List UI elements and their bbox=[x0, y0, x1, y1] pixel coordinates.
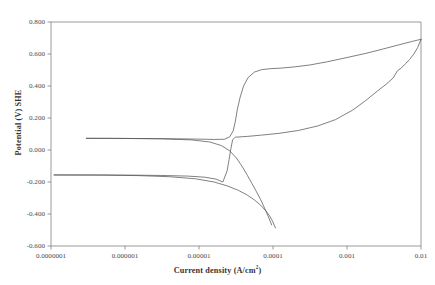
x-axis-title-tail: ) bbox=[258, 266, 261, 275]
x-tick-label: 0.000001 bbox=[90, 252, 160, 260]
series-line-cathodic-branch-upper bbox=[86, 138, 271, 225]
y-tick-label: 0.200 bbox=[5, 114, 45, 122]
y-tick-label: 0.600 bbox=[5, 50, 45, 58]
y-tick-label: 0.800 bbox=[5, 18, 45, 26]
chart-figure: -0.600-0.400-0.2000.0000.2000.4000.6000.… bbox=[0, 0, 435, 285]
x-axis-title: Current density (A/cm2) bbox=[0, 264, 435, 275]
x-tick-label: 0.00001 bbox=[164, 252, 234, 260]
y-axis-title: Potential (V) SHE bbox=[14, 68, 23, 178]
y-tick-label: -0.200 bbox=[5, 178, 45, 186]
series-line-anodic-branch-lower bbox=[54, 39, 421, 182]
series-line-anodic-branch-upper bbox=[86, 39, 421, 139]
axis-ticks-group bbox=[48, 22, 422, 250]
x-tick-label: 0.0001 bbox=[238, 252, 308, 260]
axes-group bbox=[51, 22, 421, 246]
x-tick-label: 0.01 bbox=[386, 252, 435, 260]
y-tick-label: 0.000 bbox=[5, 146, 45, 154]
y-tick-label: -0.600 bbox=[5, 242, 45, 250]
x-axis-title-base: Current density (A/cm bbox=[174, 266, 256, 275]
series-line-cathodic-branch-lower bbox=[54, 175, 275, 228]
polarization-curve-plot bbox=[0, 0, 435, 285]
y-tick-label: -0.400 bbox=[5, 210, 45, 218]
x-tick-label: 0.0000001 bbox=[16, 252, 86, 260]
x-tick-label: 0.001 bbox=[312, 252, 382, 260]
y-tick-label: 0.400 bbox=[5, 82, 45, 90]
data-series-group bbox=[54, 39, 421, 228]
